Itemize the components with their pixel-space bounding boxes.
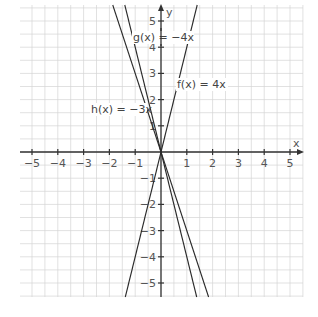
y-tick-label: 5 bbox=[149, 15, 156, 28]
x-axis-label: x bbox=[293, 137, 300, 150]
y-tick-label: −5 bbox=[140, 277, 156, 290]
h-function-label: h(x) = −3x bbox=[91, 103, 152, 116]
x-tick-label: −2 bbox=[101, 157, 117, 170]
g-function-label: g(x) = −4x bbox=[133, 31, 195, 44]
f-function-label: f(x) = 4x bbox=[177, 78, 226, 91]
x-tick-label: −3 bbox=[75, 157, 91, 170]
y-tick-label: 3 bbox=[149, 67, 156, 80]
x-tick-label: 5 bbox=[287, 157, 294, 170]
x-tick-label: −1 bbox=[127, 157, 143, 170]
x-tick-label: −5 bbox=[24, 157, 40, 170]
function-labels: g(x) = −4xf(x) = 4xh(x) = −3x bbox=[90, 28, 228, 116]
y-axis-arrow-icon bbox=[158, 4, 164, 11]
y-tick-label: −4 bbox=[140, 251, 156, 264]
x-tick-label: 2 bbox=[209, 157, 216, 170]
y-axis-label: y bbox=[166, 6, 173, 19]
x-tick-label: −4 bbox=[50, 157, 66, 170]
x-tick-label: 4 bbox=[261, 157, 268, 170]
x-tick-label: 3 bbox=[235, 157, 242, 170]
x-tick-label: 1 bbox=[183, 157, 190, 170]
axes bbox=[20, 4, 304, 297]
function-graph: −5−4−3−2−112345−5−4−3−2−112345 g(x) = −4… bbox=[0, 0, 318, 317]
